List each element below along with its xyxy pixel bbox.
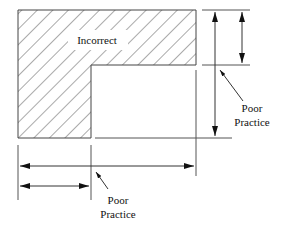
hatched-part bbox=[18, 10, 196, 138]
leader-arrows bbox=[96, 70, 243, 189]
bottom-note-line2: Practice bbox=[100, 208, 136, 220]
dimension-diagram: Incorrect Poor Practice Poor Practice bbox=[0, 0, 282, 226]
right-note-line2: Practice bbox=[234, 116, 270, 128]
right-note-line1: Poor bbox=[242, 102, 263, 114]
bottom-extension-lines bbox=[18, 145, 91, 200]
incorrect-label: Incorrect bbox=[77, 34, 117, 46]
bottom-note-line1: Poor bbox=[108, 194, 129, 206]
bottom-leader-arrow bbox=[96, 172, 108, 189]
part-outline bbox=[95, 70, 216, 176]
bottom-dimension-lines bbox=[20, 166, 194, 186]
right-leader-arrow bbox=[220, 70, 243, 101]
